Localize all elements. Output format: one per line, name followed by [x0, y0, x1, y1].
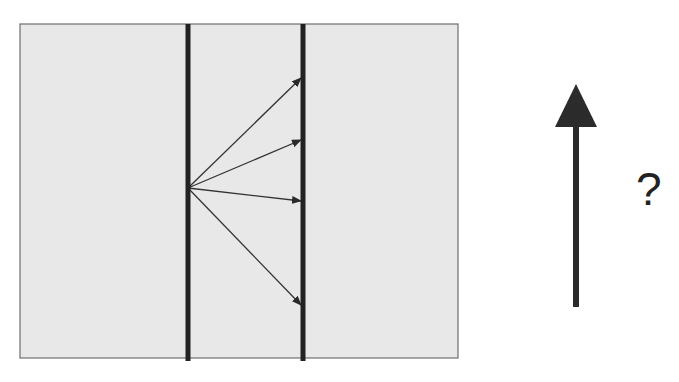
- up-arrow-icon: [555, 84, 597, 307]
- gray-panel: [20, 24, 458, 358]
- question-mark: ?: [636, 166, 662, 212]
- diagram-canvas: [0, 0, 679, 382]
